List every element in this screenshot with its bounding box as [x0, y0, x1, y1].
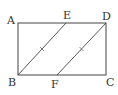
label-f: F [51, 78, 59, 91]
label-c: C [106, 76, 114, 89]
rectangle-abcd [18, 23, 106, 75]
geometry-diagram: A E D B F C [0, 0, 118, 95]
label-b: B [8, 76, 16, 89]
label-a: A [6, 14, 16, 27]
label-d: D [102, 10, 111, 23]
label-e: E [63, 9, 71, 22]
